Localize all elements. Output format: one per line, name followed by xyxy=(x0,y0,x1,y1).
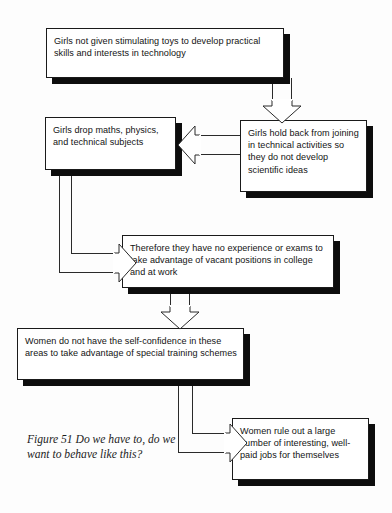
edge-noconfidence-ruleout-vertical-right xyxy=(192,380,193,433)
arrowhead-left-holdback-to-dropsubjects xyxy=(177,125,201,165)
edge-holdback-dropsubjects-horizontal-bottom xyxy=(195,154,242,155)
arrowhead-right-noconfidence-to-ruleout xyxy=(224,423,248,463)
node-no-confidence: Women do not have the self-confidence in… xyxy=(17,328,244,380)
arrowhead-down-noexp-to-noconfidence xyxy=(160,306,200,330)
node-toys-text: Girls not given stimulating toys to deve… xyxy=(54,35,278,59)
edge-dropsubjects-noexp-vertical-right xyxy=(71,170,72,253)
figure-flowchart: Girls not given stimulating toys to deve… xyxy=(0,0,392,513)
edge-holdback-dropsubjects-horizontal-top xyxy=(195,135,242,136)
node-hold-back-text: Girls hold back from joining in technica… xyxy=(248,127,361,176)
arrowhead-right-dropsubjects-to-noexp xyxy=(113,243,137,283)
edge-dropsubjects-noexp-horizontal-bottom xyxy=(59,272,116,273)
node-hold-back: Girls hold back from joining in technica… xyxy=(240,120,367,192)
node-no-experience-text: Therefore they have no experience or exa… xyxy=(130,242,328,279)
edge-dropsubjects-noexp-horizontal-top xyxy=(71,253,116,254)
edge-dropsubjects-noexp-vertical-left xyxy=(59,170,60,272)
arrowhead-down-toys-to-holdback xyxy=(262,100,302,124)
node-rule-out-jobs-text: Women rule out a large number of interes… xyxy=(240,425,363,462)
node-rule-out-jobs: Women rule out a large number of interes… xyxy=(232,418,369,480)
figure-caption: Figure 51 Do we have to, do we want to b… xyxy=(27,432,197,463)
node-toys: Girls not given stimulating toys to deve… xyxy=(46,28,284,78)
node-no-confidence-text: Women do not have the self-confidence in… xyxy=(25,335,238,359)
node-drop-subjects: Girls drop maths, physics, and technical… xyxy=(45,117,176,170)
edge-toys-holdback-vertical-right xyxy=(291,78,292,102)
node-no-experience: Therefore they have no experience or exa… xyxy=(122,235,334,288)
node-drop-subjects-text: Girls drop maths, physics, and technical… xyxy=(53,124,170,148)
edge-noconfidence-ruleout-horizontal-top xyxy=(192,433,227,434)
